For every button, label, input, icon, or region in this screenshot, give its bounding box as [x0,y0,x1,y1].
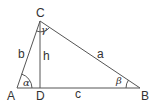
side-a-line [40,21,140,88]
side-label-c: c [75,87,81,101]
side-label-b: b [18,47,25,61]
triangle-diagram: C A D B b h a c α β γ [0,0,160,105]
angle-beta-arc [126,80,129,88]
side-label-h: h [43,49,50,63]
vertex-label-d: D [36,89,45,103]
side-label-a: a [97,47,104,61]
angle-label-gamma: γ [41,24,47,35]
vertex-label-b: B [141,89,149,103]
angle-label-beta: β [115,75,122,86]
angle-label-alpha: α [23,77,30,88]
vertex-label-c: C [36,6,45,20]
vertex-label-a: A [7,89,15,103]
